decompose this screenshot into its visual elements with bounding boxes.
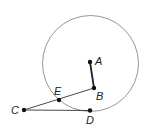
label-b: B	[96, 90, 103, 102]
label-c: C	[11, 104, 19, 116]
point-e	[57, 98, 61, 102]
label-a: A	[94, 55, 102, 67]
point-d	[88, 108, 92, 112]
point-a	[88, 60, 92, 64]
geometry-diagram: A B C D E	[0, 0, 150, 131]
segment-ab	[90, 62, 94, 88]
label-d: D	[86, 114, 94, 126]
point-c	[22, 108, 26, 112]
segment-cd	[24, 110, 90, 111]
label-e: E	[54, 85, 62, 97]
